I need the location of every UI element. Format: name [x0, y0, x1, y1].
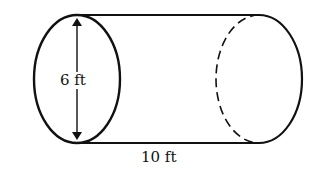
- length-label: 10 ft: [141, 150, 176, 165]
- cylinder-back-face-visible: [259, 15, 302, 143]
- diameter-label: 6 ft: [59, 72, 87, 89]
- cylinder-diagram: 6 ft 10 ft: [0, 0, 312, 173]
- cylinder-back-face-hidden: [216, 15, 259, 143]
